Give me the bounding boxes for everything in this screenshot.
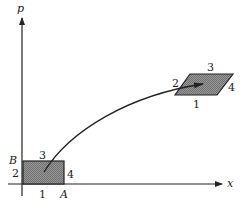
- corner-label-a: A: [59, 188, 68, 201]
- rect-edge-label-left: 2: [12, 167, 19, 180]
- vertical-axis-label: p: [17, 2, 24, 15]
- para-edge-label-left: 2: [172, 77, 179, 90]
- rect-edge-label-right: 4: [67, 168, 74, 181]
- para-edge-label-top: 3: [207, 61, 214, 74]
- trajectory-arrow: [44, 84, 203, 172]
- rect-edge-label-bottom: 1: [39, 188, 46, 201]
- corner-label-b: B: [8, 154, 17, 167]
- para-edge-label-right: 4: [228, 81, 235, 94]
- rect-edge-label-top: 3: [39, 149, 46, 162]
- horizontal-axis-label: x: [227, 177, 234, 190]
- final-region-parallelogram: [175, 74, 233, 95]
- initial-region-rectangle: [23, 161, 64, 184]
- para-edge-label-bottom: 1: [193, 98, 200, 111]
- phase-space-diagram: p x B 2 3 4 1 A 3 2 4 1: [0, 0, 249, 206]
